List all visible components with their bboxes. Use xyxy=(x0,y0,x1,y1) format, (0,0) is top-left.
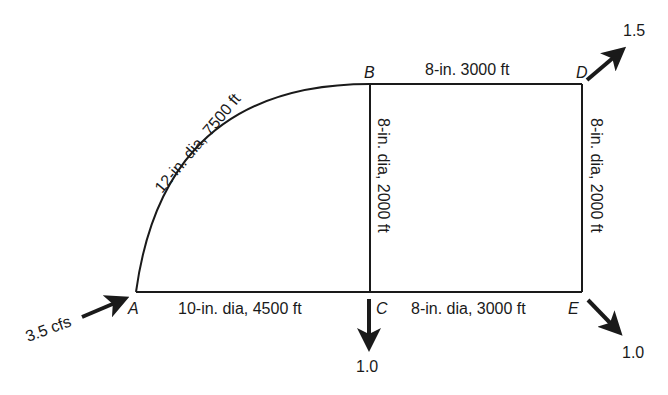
inflow-arrow-a xyxy=(82,300,122,317)
flow-label-a: 3.5 cfs xyxy=(23,313,73,345)
pipe-label-ab: 12-in. dia, 7500 ft xyxy=(151,90,244,196)
flow-label-c: 1.0 xyxy=(356,358,378,375)
pipe-label-de: 8-in. dia, 2000 ft xyxy=(588,118,605,233)
node-label-d: D xyxy=(576,64,588,81)
node-label-e: E xyxy=(568,300,579,317)
pipe-label-bc: 8-in. dia, 2000 ft xyxy=(375,118,392,233)
node-label-b: B xyxy=(364,64,375,81)
pipe-label-ce: 8-in. dia, 3000 ft xyxy=(411,300,526,317)
pipe-ab xyxy=(136,84,370,292)
flow-label-e: 1.0 xyxy=(622,344,644,361)
outflow-arrow-e xyxy=(588,300,617,330)
flow-label-d: 1.5 xyxy=(623,22,645,39)
node-label-c: C xyxy=(376,300,388,317)
pipe-network-diagram: A B C D E 12-in. dia, 7500 ft 8-in. 3000… xyxy=(0,0,668,395)
node-label-a: A xyxy=(127,300,139,317)
pipe-label-bd: 8-in. 3000 ft xyxy=(425,61,510,78)
pipe-label-ac: 10-in. dia, 4500 ft xyxy=(178,300,302,317)
outflow-arrow-d xyxy=(587,52,620,80)
